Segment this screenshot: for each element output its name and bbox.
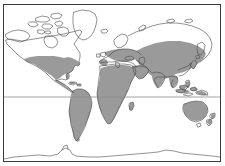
world-map-canvas <box>0 0 225 166</box>
world-distribution-map-figure: World map with shaded distribution range <box>0 0 225 166</box>
